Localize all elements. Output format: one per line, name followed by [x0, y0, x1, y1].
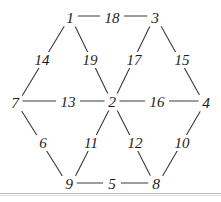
bottom-divider	[0, 193, 221, 194]
edge-label-18[interactable]: 18	[105, 11, 120, 26]
vertex-9[interactable]: 9	[65, 176, 73, 192]
diagram-canvas: 1 3 7 2 4 9 8 18 14 19 17 15 13 16 6 11 …	[0, 0, 221, 202]
vertex-1[interactable]: 1	[66, 10, 74, 26]
edge-label-6[interactable]: 6	[39, 136, 47, 151]
vertex-3[interactable]: 3	[151, 10, 159, 26]
edge-label-10[interactable]: 10	[175, 136, 190, 151]
edge-label-17[interactable]: 17	[127, 53, 142, 68]
edge-label-13[interactable]: 13	[61, 95, 76, 110]
edge-label-15[interactable]: 15	[175, 53, 190, 68]
edge-label-5[interactable]: 5	[108, 177, 116, 192]
edge-label-16[interactable]: 16	[150, 95, 165, 110]
vertex-8[interactable]: 8	[152, 176, 160, 192]
edge-label-12[interactable]: 12	[128, 136, 143, 151]
edge-label-19[interactable]: 19	[83, 53, 98, 68]
vertex-4[interactable]: 4	[202, 95, 210, 111]
vertex-2[interactable]: 2	[108, 94, 116, 110]
bottom-divider-secondary	[0, 195, 221, 196]
vertex-7[interactable]: 7	[11, 95, 19, 111]
edge-label-14[interactable]: 14	[35, 53, 50, 68]
edge-label-11[interactable]: 11	[84, 136, 98, 151]
